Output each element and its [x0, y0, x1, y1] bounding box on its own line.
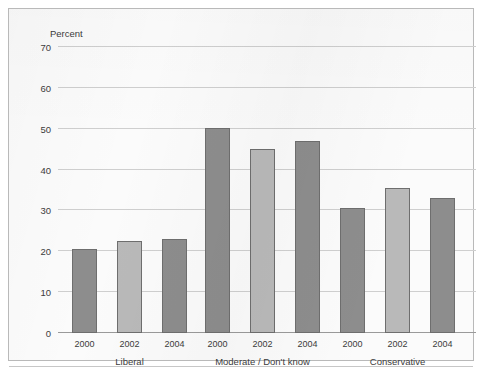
y-axis-tick-label: 60 [40, 82, 51, 93]
bar-moderate-don-t-know-2004 [295, 141, 320, 333]
plot-area: 010203040506070 [58, 47, 476, 333]
y-axis-tick-label: 0 [46, 328, 51, 339]
gridline-70 [58, 46, 476, 47]
y-axis-tick-label: 40 [40, 164, 51, 175]
bar-conservative-2002 [385, 188, 410, 333]
bar-liberal-2002 [117, 241, 142, 333]
y-axis-tick-label: 10 [40, 287, 51, 298]
y-axis-title: Percent [50, 28, 83, 39]
y-axis-tick-label: 20 [40, 246, 51, 257]
x-axis-tick-label: 2002 [108, 339, 152, 349]
x-axis-tick-label: 2002 [376, 339, 420, 349]
chart-panel: Percent 010203040506070 2000200220042000… [8, 8, 474, 361]
bar-moderate-don-t-know-2000 [205, 128, 230, 334]
bar-moderate-don-t-know-2002 [250, 149, 275, 333]
bar-conservative-2000 [340, 208, 365, 333]
gridline-60 [58, 87, 476, 88]
bar-conservative-2004 [430, 198, 455, 333]
bar-liberal-2000 [72, 249, 97, 333]
x-axis-tick-label: 2000 [196, 339, 240, 349]
gridline-50 [58, 128, 476, 129]
y-axis-tick-label: 50 [40, 123, 51, 134]
x-axis-tick-label: 2002 [241, 339, 285, 349]
x-axis-tick-label: 2000 [331, 339, 375, 349]
bottom-divider [9, 366, 473, 367]
x-axis-tick-label: 2004 [421, 339, 465, 349]
bar-chart-figure: Percent 010203040506070 2000200220042000… [0, 0, 483, 376]
x-axis-tick-label: 2000 [63, 339, 107, 349]
x-axis-tick-label: 2004 [286, 339, 330, 349]
x-axis-tick-label: 2004 [153, 339, 197, 349]
y-axis-tick-label: 70 [40, 42, 51, 53]
bar-liberal-2004 [162, 239, 187, 333]
y-axis-tick-label: 30 [40, 205, 51, 216]
